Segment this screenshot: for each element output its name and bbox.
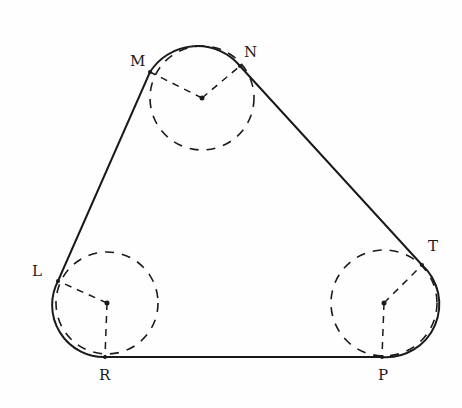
radius-R [105, 303, 107, 357]
radius-M [150, 72, 202, 98]
point-M [148, 70, 152, 74]
label-L: L [32, 262, 42, 280]
center-dot-top [200, 96, 205, 101]
center-dot-left [105, 301, 110, 306]
point-N [238, 64, 242, 68]
label-N: N [244, 43, 257, 61]
belt-outline [52, 46, 439, 357]
point-L [56, 279, 60, 283]
point-R [103, 355, 107, 359]
point-T [420, 263, 424, 267]
radius-P [382, 303, 384, 357]
center-dot-right [382, 301, 387, 306]
label-T: T [428, 237, 438, 255]
label-M: M [130, 52, 145, 70]
label-P: P [378, 366, 388, 384]
radius-T [384, 265, 422, 303]
diagram-canvas: M N L R T P [0, 0, 462, 408]
radius-N [202, 66, 240, 98]
point-P [380, 355, 384, 359]
belt-pulley-diagram [0, 0, 462, 408]
radius-L [58, 281, 107, 303]
label-R: R [99, 366, 110, 384]
